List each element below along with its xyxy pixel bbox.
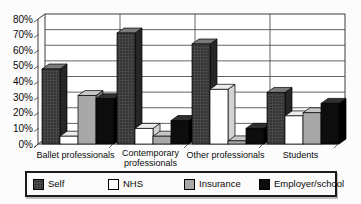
legend-item-employer-school: Employer/school <box>259 173 344 195</box>
y-tick-label-80: 80% <box>13 14 33 25</box>
x-category-label-students: Students <box>283 150 319 160</box>
y-tick-label-30: 30% <box>13 92 33 103</box>
legend-swatch-insurance <box>184 179 195 190</box>
legend-swatch-employer-school <box>259 179 270 190</box>
legend-item-self: Self <box>33 173 64 195</box>
y-tick-label-40: 40% <box>13 76 33 87</box>
legend-item-nhs: NHS <box>108 173 143 195</box>
legend-swatch-self <box>33 179 44 190</box>
bar-self-ballet-professionals <box>42 64 67 144</box>
x-axis: Ballet professionalsContemporaryprofessi… <box>34 144 338 168</box>
legend-label-self: Self <box>48 179 64 189</box>
chart-legend: Self NHS Insurance Employer/school <box>25 171 337 197</box>
legend-swatch-nhs <box>108 179 119 190</box>
y-tick-label-70: 70% <box>13 29 33 40</box>
legend-label-employer-school: Employer/school <box>274 179 344 189</box>
bar-chart-3d: 0%10%20%30%40%50%60%70%80%Ballet profess… <box>0 0 361 168</box>
legend-label-nhs: NHS <box>123 179 143 189</box>
legend-label-insurance: Insurance <box>199 179 241 189</box>
y-tick-label-50: 50% <box>13 60 33 71</box>
y-tick-label-10: 10% <box>13 123 33 134</box>
x-category-label-contemporary-professionals: Contemporaryprofessionals <box>122 148 180 168</box>
y-tick-label-20: 20% <box>13 107 33 118</box>
y-axis: 0%10%20%30%40%50%60%70%80% <box>13 14 45 150</box>
legend-item-insurance: Insurance <box>184 173 241 195</box>
y-tick-label-0: 0% <box>19 139 34 150</box>
y-tick-label-60: 60% <box>13 45 33 56</box>
x-category-label-ballet-professionals: Ballet professionals <box>36 150 115 160</box>
bar-nhs-other-professionals <box>210 84 235 144</box>
chart-window: 0%10%20%30%40%50%60%70%80%Ballet profess… <box>0 0 361 204</box>
x-category-label-other-professionals: Other professionals <box>186 150 265 160</box>
bar-employer-school-students <box>321 98 346 144</box>
